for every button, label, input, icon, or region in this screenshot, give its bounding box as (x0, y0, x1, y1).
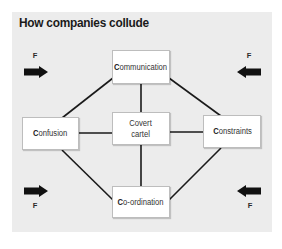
arrow-left-icon (237, 66, 261, 78)
edge-top-left (62, 78, 113, 118)
node-constraints-label: onstraints (218, 126, 251, 136)
arrow-left-icon (237, 185, 261, 197)
node-covert-cartel-line1: Covert (130, 118, 153, 128)
node-covert-cartel: Covert cartel (112, 112, 170, 145)
edge-bottom-left (62, 150, 113, 200)
force-label-bottom-left: F (29, 201, 41, 210)
node-communication-label: ommunication (120, 62, 168, 72)
arrow-right-icon (24, 185, 48, 197)
edge-bottom-right (169, 148, 221, 200)
node-confusion-label: onfusion (39, 128, 68, 138)
node-constraints: Constraints (203, 115, 261, 148)
force-label-top-left: F (29, 51, 41, 60)
node-co-ordination: Co-ordination (112, 186, 170, 218)
arrow-right-icon (24, 66, 48, 78)
node-covert-cartel-line2: cartel (132, 129, 151, 139)
force-label-top-right: F (243, 51, 255, 60)
force-label-bottom-right: F (244, 201, 256, 210)
node-co-ordination-label: o-ordination (124, 197, 164, 207)
node-confusion: Confusion (22, 117, 79, 150)
node-communication: Communication (112, 50, 170, 84)
edge-top-right (169, 78, 221, 116)
node-constraints-initial: C (213, 126, 219, 136)
